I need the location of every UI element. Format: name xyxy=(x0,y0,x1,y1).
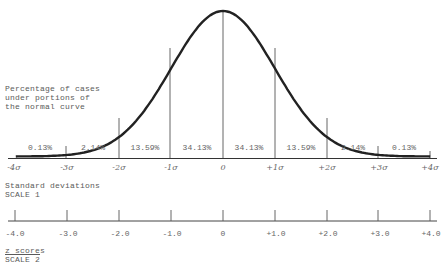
scale1-tick-label: +1σ xyxy=(266,163,283,172)
scale1-tick-label: +2σ xyxy=(318,163,335,172)
scale1-tick-label: -2σ xyxy=(112,163,125,172)
scale2-ticks xyxy=(15,210,430,221)
scale1-tick-label: -4σ xyxy=(7,163,20,172)
segment-percent: 34.13% xyxy=(183,143,212,152)
scale2-tick-label: 0 xyxy=(221,229,226,238)
scale1-subtitle: SCALE 1 xyxy=(5,190,40,199)
scale1-tick-label: -3σ xyxy=(60,163,73,172)
scale2-tick-label: +3.0 xyxy=(370,229,389,238)
segment-percent: 13.59% xyxy=(131,143,160,152)
scale1-tick-label: +3σ xyxy=(370,163,387,172)
segment-percent: 0.13% xyxy=(28,143,52,152)
normal-curve-diagram xyxy=(0,0,444,267)
segment-percent: 0.13% xyxy=(392,143,416,152)
scale2-tick-label: -3.0 xyxy=(58,229,77,238)
scale2-title: z scores xyxy=(5,246,45,255)
segment-percent: 13.59% xyxy=(287,143,316,152)
scale2-tick-label: +1.0 xyxy=(266,229,285,238)
annotation-line-2: under portions of xyxy=(5,93,90,102)
scale1-tick-label: +4σ xyxy=(421,163,438,172)
segment-percent: 2.14% xyxy=(341,143,365,152)
segment-percent: 2.14% xyxy=(81,143,105,152)
segment-percent: 34.13% xyxy=(235,143,264,152)
annotation-line-1: Percentage of cases xyxy=(5,84,100,93)
scale2-tick-label: +4.0 xyxy=(421,229,440,238)
scale2-tick-label: -2.0 xyxy=(110,229,129,238)
scale2-subtitle: SCALE 2 xyxy=(5,255,40,264)
scale1-title: Standard deviations xyxy=(5,181,100,190)
scale1-tick-label: 0 xyxy=(220,163,225,172)
scale2-tick-label: -4.0 xyxy=(5,229,24,238)
scale2-tick-label: +2.0 xyxy=(318,229,337,238)
scale1-tick-label: -1σ xyxy=(164,163,177,172)
scale2-tick-label: -1.0 xyxy=(162,229,181,238)
annotation-line-3: the normal curve xyxy=(5,102,85,111)
